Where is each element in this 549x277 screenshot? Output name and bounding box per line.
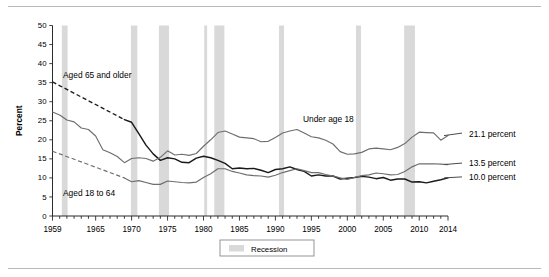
x-tick-label: 1995 [302, 225, 321, 234]
aged-65-and-older-label: Aged 65 and older [63, 70, 132, 80]
y-axis-tick-labels: 05101520253035404550 [38, 21, 47, 221]
y-tick-label: 30 [38, 97, 47, 106]
aged-65-leader [444, 177, 462, 178]
x-tick-label: 2014 [439, 225, 458, 234]
x-tick-label: 1985 [230, 225, 249, 234]
y-tick-label: 0 [42, 212, 47, 221]
end-label-aged-18-to-64: 13.5 percent [469, 158, 516, 168]
end-label-under-age-18: 21.1 percent [469, 129, 516, 139]
x-tick-label: 2000 [338, 225, 357, 234]
x-tick-label: 1959 [43, 225, 62, 234]
x-tick-label: 1980 [194, 225, 213, 234]
recession-band [279, 26, 284, 217]
x-tick-label: 2010 [410, 225, 429, 234]
y-axis-title-text: Percent [14, 105, 24, 136]
data-series-lines [53, 82, 449, 184]
x-axis-tick-labels: 1959196519701975198019851990199520002005… [43, 225, 457, 234]
recession-band [204, 26, 207, 217]
aged-18-to-64-leader [444, 163, 462, 165]
x-tick-label: 1970 [122, 225, 141, 234]
under-age-18-leader [444, 133, 462, 136]
recession-band [214, 26, 224, 217]
recession-swatch [229, 245, 244, 252]
x-tick-label: 1990 [266, 225, 285, 234]
series-line [53, 112, 449, 163]
recession-legend: Recession [220, 240, 314, 256]
y-tick-label: 25 [38, 116, 47, 125]
series-line [124, 164, 448, 185]
aged-18-to-64-label: Aged 18 to 64 [63, 188, 115, 198]
y-tick-label: 35 [38, 78, 47, 87]
recession-legend-label: Recession [251, 245, 287, 254]
y-tick-label: 10 [38, 173, 47, 182]
recession-band [159, 26, 169, 217]
x-tick-label: 2005 [374, 225, 393, 234]
y-tick-label: 50 [38, 21, 47, 30]
y-tick-label: 15 [38, 154, 47, 163]
x-tick-label: 1975 [158, 225, 177, 234]
y-axis-title: Percent [14, 105, 24, 136]
y-tick-label: 5 [42, 193, 47, 202]
under-age-18-label: Under age 18 [303, 114, 354, 124]
y-tick-label: 20 [38, 135, 47, 144]
poverty-rate-line-chart: 05101520253035404550 1959196519701975198… [0, 0, 549, 277]
end-label-aged-65: 10.0 percent [469, 172, 516, 182]
x-tick-label: 1965 [87, 225, 106, 234]
y-tick-label: 40 [38, 59, 47, 68]
y-tick-label: 45 [38, 40, 47, 49]
recession-band [131, 26, 137, 217]
recession-band [356, 26, 361, 217]
recession-band [404, 26, 415, 217]
